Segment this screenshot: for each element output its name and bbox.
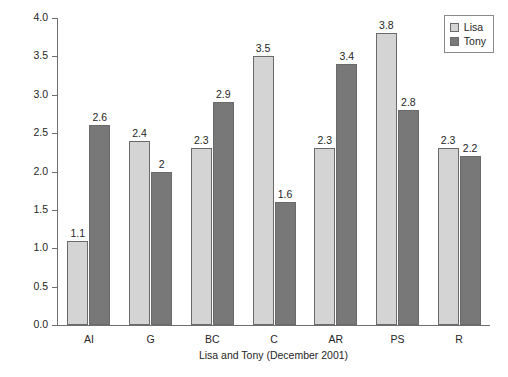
bar-group: 2.32.9 xyxy=(191,18,234,325)
bar-value-label: 3.5 xyxy=(247,42,280,54)
bar-value-label: 2.2 xyxy=(454,142,487,154)
y-axis-tick-mark xyxy=(52,56,57,57)
y-axis-tick-mark xyxy=(52,248,57,249)
y-axis-tick-label: 1.0 xyxy=(33,241,48,254)
bar-group: 1.12.6 xyxy=(67,18,110,325)
y-axis-tick-mark xyxy=(52,210,57,211)
bar-tony-ar[interactable] xyxy=(336,64,357,325)
bar-group: 2.33.4 xyxy=(314,18,357,325)
bar-value-label: 2.4 xyxy=(123,127,156,139)
y-axis-tick-mark xyxy=(52,133,57,134)
x-axis-title: Lisa and Tony (December 2001) xyxy=(57,349,490,362)
bar-lisa-bc[interactable] xyxy=(191,148,212,325)
bar-tony-r[interactable] xyxy=(460,156,481,325)
bar-tony-ps[interactable] xyxy=(398,110,419,325)
bar-value-label: 3.4 xyxy=(330,50,363,62)
x-axis-tick-label-ai: AI xyxy=(59,333,119,346)
x-axis-tick-label-c: C xyxy=(244,333,304,346)
y-axis-tick: 3.5 xyxy=(0,56,57,57)
bar-group: 2.42 xyxy=(129,18,172,325)
legend-label-tony: Tony xyxy=(464,35,486,48)
y-axis-tick-mark xyxy=(52,95,57,96)
bar-value-label: 3.8 xyxy=(370,19,403,31)
bar-chart: 0.00.51.01.52.02.53.03.54.0 1.12.62.422.… xyxy=(0,0,508,377)
y-axis-tick-label: 0.5 xyxy=(33,280,48,293)
legend-swatch-tony-icon xyxy=(450,37,459,46)
y-axis-tick: 0.0 xyxy=(0,325,57,326)
bar-tony-bc[interactable] xyxy=(213,102,234,325)
bar-tony-g[interactable] xyxy=(151,172,172,326)
bar-lisa-ar[interactable] xyxy=(314,148,335,325)
legend-item-lisa[interactable]: Lisa xyxy=(450,20,486,34)
bar-lisa-ai[interactable] xyxy=(67,241,88,325)
legend-swatch-lisa-icon xyxy=(450,23,459,32)
y-axis-tick-label: 0.0 xyxy=(33,318,48,331)
x-axis-tick-label-r: R xyxy=(429,333,489,346)
y-axis-tick: 3.0 xyxy=(0,95,57,96)
bar-group: 3.82.8 xyxy=(376,18,419,325)
legend-item-tony[interactable]: Tony xyxy=(450,34,486,48)
bar-value-label: 2.6 xyxy=(83,111,116,123)
bar-tony-ai[interactable] xyxy=(89,125,110,325)
bar-group: 3.51.6 xyxy=(253,18,296,325)
bar-value-label: 2 xyxy=(145,158,178,170)
y-axis-tick-label: 3.5 xyxy=(33,49,48,62)
x-axis-line xyxy=(57,325,490,326)
y-axis-tick: 4.0 xyxy=(0,18,57,19)
y-axis-tick-mark xyxy=(52,18,57,19)
y-axis-tick: 2.5 xyxy=(0,133,57,134)
x-axis-tick-label-bc: BC xyxy=(182,333,242,346)
y-axis-tick-label: 1.5 xyxy=(33,203,48,216)
bar-lisa-ps[interactable] xyxy=(376,33,397,325)
x-axis-tick-label-g: G xyxy=(121,333,181,346)
x-axis-tick-label-ar: AR xyxy=(306,333,366,346)
y-axis-tick-mark xyxy=(52,172,57,173)
y-axis-tick-label: 3.0 xyxy=(33,88,48,101)
bar-tony-c[interactable] xyxy=(275,202,296,325)
y-axis-tick-mark xyxy=(52,287,57,288)
bar-value-label: 2.9 xyxy=(207,88,240,100)
y-axis-tick: 1.5 xyxy=(0,210,57,211)
bar-value-label: 1.6 xyxy=(269,188,302,200)
y-axis-tick: 0.5 xyxy=(0,287,57,288)
plot-area: 1.12.62.422.32.93.51.62.33.43.82.82.32.2 xyxy=(58,18,490,325)
chart-legend: Lisa Tony xyxy=(444,15,494,53)
y-axis-tick-label: 2.0 xyxy=(33,165,48,178)
y-axis-tick-label: 4.0 xyxy=(33,11,48,24)
y-axis-tick: 2.0 xyxy=(0,172,57,173)
bar-lisa-r[interactable] xyxy=(438,148,459,325)
y-axis-tick-mark xyxy=(52,325,57,326)
y-axis-tick: 1.0 xyxy=(0,248,57,249)
x-axis-tick-label-ps: PS xyxy=(367,333,427,346)
y-axis-tick-label: 2.5 xyxy=(33,126,48,139)
bar-group: 2.32.2 xyxy=(438,18,481,325)
bar-value-label: 2.8 xyxy=(392,96,425,108)
legend-label-lisa: Lisa xyxy=(464,21,483,34)
